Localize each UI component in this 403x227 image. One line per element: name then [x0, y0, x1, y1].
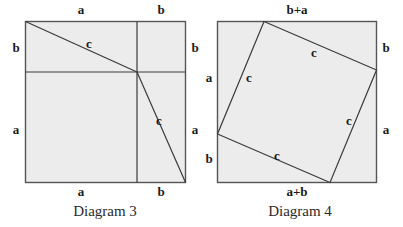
diagram-3-label-hypotenuse-upper: c — [86, 36, 92, 51]
figure-canvas: a b b a b a a b c c Diagram 3 b+a a b — [0, 0, 403, 227]
diagram-4-label-side-left: c — [246, 70, 252, 85]
diagram-4-label-left-lower: b — [205, 151, 212, 166]
diagram-3-group: a b b a b a a b c c Diagram 3 — [12, 2, 198, 219]
diagram-4-label-side-bottom: c — [274, 148, 280, 163]
diagram-3-caption: Diagram 3 — [73, 203, 137, 219]
diagram-3-label-bottom-left: a — [78, 184, 85, 199]
diagram-3-label-right-upper: b — [191, 40, 198, 55]
diagram-3-label-hypotenuse-lower: c — [156, 113, 162, 128]
diagram-4-label-top: b+a — [286, 2, 308, 17]
diagram-3-label-right-lower: a — [192, 122, 199, 137]
diagram-4-label-side-right: c — [346, 113, 352, 128]
diagram-3-label-top-left: a — [78, 2, 85, 17]
diagram-4-group: b+a a b b a a+b c c c c Diagram 4 — [205, 2, 389, 219]
diagram-3-label-left-lower: a — [13, 122, 20, 137]
diagram-3-square — [26, 22, 186, 183]
diagram-4-label-left-upper: a — [206, 70, 213, 85]
diagram-4-caption: Diagram 4 — [268, 203, 332, 219]
diagram-4-label-bottom: a+b — [286, 184, 307, 199]
diagram-3-label-bottom-right: b — [157, 184, 164, 199]
diagram-3-label-top-right: b — [157, 2, 164, 17]
diagram-4-label-side-top: c — [311, 45, 317, 60]
pythagorean-proof-figure: a b b a b a a b c c Diagram 3 b+a a b — [0, 0, 403, 227]
diagram-4-label-right-lower: a — [383, 122, 390, 137]
diagram-4-label-right-upper: b — [382, 40, 389, 55]
diagram-3-label-left-upper: b — [12, 40, 19, 55]
